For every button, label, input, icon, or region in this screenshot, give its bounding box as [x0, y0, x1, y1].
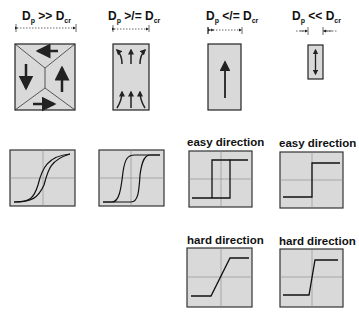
hard-direction-label-1: hard direction [187, 234, 264, 246]
loop-large-md [10, 150, 75, 206]
dimension-line-medium [113, 25, 149, 32]
loop-psd [99, 150, 164, 206]
domain-vortex [113, 44, 149, 110]
loop-hard-sd [187, 248, 252, 307]
loop-easy-sd [189, 151, 252, 207]
domain-superparamagnetic [308, 45, 323, 79]
domain-single [208, 44, 241, 110]
domain-flux-closure [15, 44, 75, 110]
dimension-line-tiny [296, 27, 338, 35]
loop-hard-sp [280, 249, 343, 307]
dimension-line-large [16, 24, 76, 32]
loop-easy-sp [280, 152, 343, 208]
dimension-line-small [208, 27, 242, 34]
diagram-canvas [0, 0, 359, 322]
easy-direction-label-2: easy direction [279, 137, 356, 149]
hard-direction-label-2: hard direction [279, 235, 356, 247]
easy-direction-label-1: easy direction [187, 136, 264, 148]
